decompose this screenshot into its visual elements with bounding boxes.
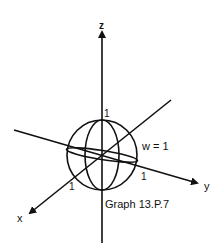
z-unit-label: 1 [104, 108, 110, 119]
y-axis [14, 130, 197, 183]
unit-sphere-diagram: z y x 1 1 1 w = 1 Graph 13.P.7 [0, 0, 224, 250]
y-axis-label: y [204, 180, 210, 192]
x-axis [30, 100, 171, 213]
graph-caption: Graph 13.P.7 [105, 198, 169, 210]
y-unit-label: 1 [141, 171, 147, 182]
x-axis-label: x [17, 212, 23, 224]
radius-annotation: w = 1 [141, 140, 169, 152]
z-axis-label: z [99, 20, 104, 31]
x-unit-label: 1 [69, 181, 75, 192]
